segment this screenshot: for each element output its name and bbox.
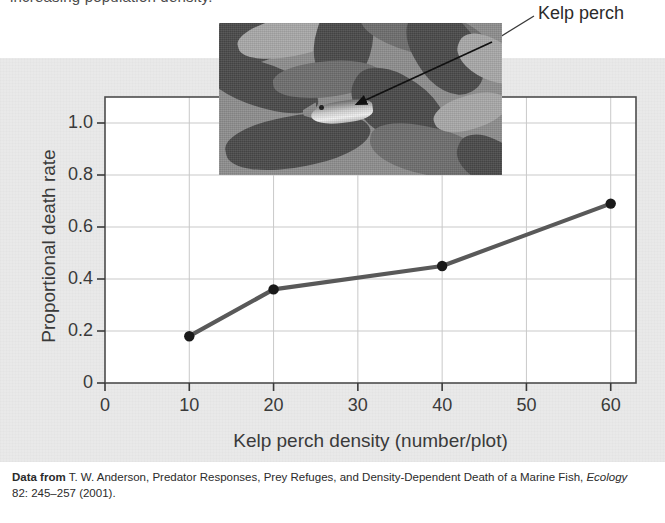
- y-tick-label: 0.6: [49, 216, 93, 237]
- citation-authors: T. W. Anderson, Predator Responses, Prey…: [66, 471, 587, 483]
- kelp-perch-photo: [219, 23, 502, 175]
- x-tick-label: 10: [167, 395, 211, 416]
- citation-rest: 82: 245–257 (2001).: [12, 487, 116, 499]
- x-tick-label: 20: [252, 395, 296, 416]
- x-tick-label: 30: [336, 395, 380, 416]
- x-tick-label: 0: [83, 395, 127, 416]
- x-axis-title: Kelp perch density (number/plot): [105, 430, 636, 452]
- citation-prefix: Data from: [12, 471, 66, 483]
- x-tick-label: 60: [589, 395, 633, 416]
- y-tick-label: 0: [49, 372, 93, 393]
- y-tick-label: 1.0: [49, 112, 93, 133]
- y-tick-label: 0.8: [49, 164, 93, 185]
- y-tick-label: 0.2: [49, 320, 93, 341]
- kelp-perch-annotation-label: Kelp perch: [538, 3, 624, 24]
- y-axis-title: Proportional death rate: [38, 101, 60, 391]
- x-tick-label: 50: [504, 395, 548, 416]
- cut-off-caption-text: increasing population density.: [10, 0, 213, 5]
- citation-text: Data from T. W. Anderson, Predator Respo…: [12, 470, 632, 501]
- y-tick-label: 0.4: [49, 268, 93, 289]
- citation-journal: Ecology: [586, 471, 627, 483]
- photo-grain-overlay: [219, 23, 502, 175]
- x-tick-label: 40: [420, 395, 464, 416]
- citation-strip: Data from T. W. Anderson, Predator Respo…: [0, 462, 665, 523]
